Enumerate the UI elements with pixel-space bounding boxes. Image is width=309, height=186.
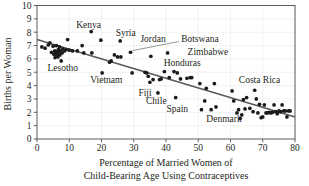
data-point <box>163 70 167 74</box>
data-point <box>261 115 265 119</box>
x-tick-label-40: 40 <box>161 143 171 153</box>
y-tick-label-5: 5 <box>27 68 32 78</box>
data-point <box>271 110 275 114</box>
data-point <box>285 115 289 119</box>
annotation-syria: Syria <box>116 28 137 38</box>
data-point <box>272 103 276 107</box>
x-tick-labels: 01020304050607080 <box>35 143 300 153</box>
data-point <box>82 51 86 55</box>
annotation-botswana: Botswana <box>181 34 219 44</box>
annotation-denmark: Denmark <box>206 114 242 124</box>
annotation-kenya: Kenya <box>76 20 102 30</box>
data-point <box>198 82 202 86</box>
data-point <box>51 44 55 48</box>
scatter-plot-figure: 01020304050607080 012345678910 KenyaSyri… <box>0 0 309 186</box>
data-point <box>258 102 262 106</box>
annotation-jordan: Jordan <box>140 34 166 44</box>
data-point <box>256 111 260 115</box>
data-point <box>230 89 234 93</box>
data-point <box>203 99 207 103</box>
data-point <box>185 76 189 80</box>
data-point <box>48 41 52 45</box>
data-point <box>166 51 170 55</box>
data-point <box>113 53 117 57</box>
data-point <box>151 78 155 82</box>
data-point <box>214 105 218 109</box>
data-point <box>283 109 287 113</box>
y-tick-label-7: 7 <box>27 41 32 51</box>
data-point <box>253 88 257 92</box>
y-tick-label-1: 1 <box>27 121 32 131</box>
data-point <box>167 76 171 80</box>
x-tick-label-50: 50 <box>194 143 204 153</box>
data-point <box>149 54 153 58</box>
data-point <box>159 77 163 81</box>
y-tick-label-10: 10 <box>22 1 32 11</box>
data-point <box>232 99 236 103</box>
y-axis-title: Births per Woman <box>2 38 13 111</box>
x-tick-label-20: 20 <box>97 143 107 153</box>
data-point <box>243 107 247 111</box>
annotation-costa-rica: Costa Rica <box>239 75 281 85</box>
y-tick-label-4: 4 <box>27 81 32 91</box>
x-tick-label-80: 80 <box>290 143 300 153</box>
data-point <box>66 38 70 42</box>
y-tick-labels: 012345678910 <box>22 1 32 145</box>
data-point <box>179 77 183 81</box>
data-point <box>251 110 255 114</box>
annotation-honduras: Honduras <box>164 58 201 68</box>
data-point <box>280 103 284 107</box>
y-tick-label-2: 2 <box>27 108 32 118</box>
data-point <box>145 71 149 75</box>
data-point <box>175 71 179 75</box>
data-point <box>129 50 133 54</box>
annotation-vietnam: Vietnam <box>90 75 123 85</box>
data-point <box>242 98 246 102</box>
data-point <box>71 49 75 53</box>
x-tick-label-10: 10 <box>65 143 75 153</box>
data-point <box>254 97 258 101</box>
data-point <box>130 71 134 75</box>
data-point <box>64 48 68 52</box>
data-point <box>55 44 59 48</box>
data-point <box>172 70 176 74</box>
data-point <box>200 108 204 112</box>
x-tick-label-30: 30 <box>129 143 139 153</box>
data-point <box>213 82 217 86</box>
y-tick-label-8: 8 <box>27 28 32 38</box>
data-point <box>67 48 71 52</box>
data-point <box>75 49 79 53</box>
annotation-lesotho: Lesotho <box>47 63 78 73</box>
data-point <box>209 108 213 112</box>
data-point <box>109 59 113 63</box>
y-tick-label-3: 3 <box>27 94 32 104</box>
annotation-chile: Chile <box>146 96 167 106</box>
data-point <box>288 109 292 113</box>
data-point <box>248 106 252 110</box>
x-axis-caption-line-1: Percentage of Married Women of <box>99 157 233 168</box>
data-point <box>204 86 208 90</box>
axis-ticks <box>34 6 295 143</box>
y-tick-label-9: 9 <box>27 14 32 24</box>
annotation-spain: Spain <box>166 104 188 114</box>
data-point <box>237 108 241 112</box>
data-point <box>263 103 267 107</box>
data-point <box>156 91 160 95</box>
data-point <box>148 80 152 84</box>
data-point <box>119 55 123 59</box>
data-point <box>43 46 47 50</box>
y-tick-label-6: 6 <box>27 54 32 64</box>
data-point <box>99 38 103 42</box>
chart-canvas: 01020304050607080 012345678910 KenyaSyri… <box>0 0 309 186</box>
data-point <box>40 45 44 49</box>
data-point <box>190 76 194 80</box>
data-point <box>90 51 94 55</box>
annotation-zimbabwe: Zimbabwe <box>188 47 229 57</box>
data-point <box>116 55 120 59</box>
x-tick-label-0: 0 <box>35 143 40 153</box>
data-point <box>80 44 84 48</box>
data-point <box>146 74 150 78</box>
y-tick-label-0: 0 <box>27 134 32 144</box>
x-axis-caption-line-2: Child-Bearing Age Using Contraceptives <box>84 170 249 181</box>
data-point <box>245 96 249 100</box>
